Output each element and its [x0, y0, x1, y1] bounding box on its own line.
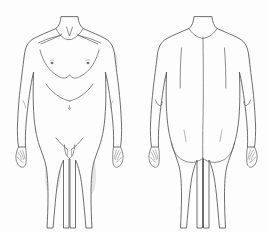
nipple-right — [87, 62, 90, 64]
posterior-view-group — [149, 17, 257, 228]
anterior-view-group — [16, 17, 123, 228]
hand-left-thumb — [18, 157, 24, 163]
hand-left-back-thumb — [151, 157, 157, 163]
nipple-left — [51, 62, 54, 64]
hand-right-back-thumb — [250, 157, 256, 163]
hand-right-back — [247, 147, 257, 167]
hand-left — [16, 147, 26, 167]
hand-left-back — [149, 147, 159, 167]
hand-right — [113, 147, 123, 167]
hand-right-thumb — [116, 157, 122, 163]
anterior-body-outline — [17, 17, 121, 228]
body-map-svg — [0, 0, 268, 232]
body-map-figure: Injection Site Body Map Front view Back … — [0, 0, 268, 232]
